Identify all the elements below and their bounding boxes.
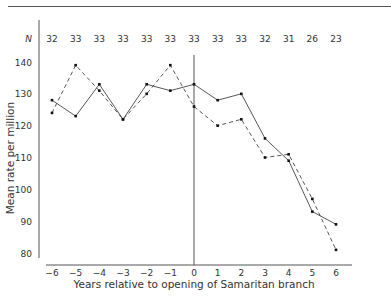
data-point-dashed [51,112,54,115]
x-tick-label: 1 [215,268,221,278]
data-point-dashed [264,156,267,159]
x-tick-label: −1 [164,268,177,278]
axes [39,20,352,265]
data-point-dashed [74,64,77,67]
data-point-dashed [287,153,290,156]
n-value: 33 [70,34,81,44]
data-point-solid [74,115,77,118]
data-point-dashed [335,249,338,252]
data-point-dashed [240,118,243,121]
y-tick-label: 80 [21,249,33,259]
n-row: N32333333333333333332312623 [25,34,341,44]
n-value: 33 [94,34,105,44]
data-point-dashed [169,64,172,67]
x-tick-label: −5 [69,268,82,278]
x-tick-label: −6 [45,268,59,278]
n-value: 23 [330,34,341,44]
n-value: 33 [165,34,176,44]
n-value: 33 [212,34,223,44]
data-point-solid [240,93,243,96]
data-point-solid [51,99,54,102]
data-point-solid [193,83,196,86]
y-tick-label: 90 [21,217,33,227]
y-tick-label: 140 [15,58,32,68]
y-tick-label: 120 [15,121,32,131]
y-tick-label: 130 [15,89,32,99]
line-chart: 8090100110120130140 −6−5−4−3−2−10123456 … [0,0,391,299]
n-label: N [25,34,32,44]
y-tick-labels: 8090100110120130140 [15,58,32,259]
n-value: 31 [283,34,294,44]
data-point-solid [169,89,172,92]
n-value: 33 [141,34,152,44]
data-point-dashed [145,93,148,96]
n-value: 33 [117,34,128,44]
y-axis-label: Mean rate per million [4,102,16,214]
data-point-dashed [311,198,314,201]
x-tick-label: −4 [93,268,107,278]
data-point-solid [264,137,267,140]
data-point-solid [216,99,219,102]
data-point-dashed [193,105,196,108]
x-tick-label: 4 [286,268,292,278]
data-point-solid [335,223,338,226]
x-tick-label: −2 [140,268,153,278]
data-point-solid [311,210,314,213]
data-point-dashed [122,118,125,121]
y-tick-label: 110 [15,153,32,163]
x-tick-label: −3 [116,268,129,278]
x-tick-label: 0 [191,268,197,278]
n-value: 32 [46,34,57,44]
x-tick-label: 5 [309,268,315,278]
y-tick-label: 100 [15,185,32,195]
data-point-solid [145,83,148,86]
data-point-solid [98,83,101,86]
x-axis-label: Years relative to opening of Samaritan b… [72,278,314,290]
n-value: 32 [259,34,270,44]
n-value: 26 [307,34,319,44]
x-tick-labels: −6−5−4−3−2−10123456 [45,268,339,278]
data-point-solid [287,159,290,162]
x-tick-label: 6 [333,268,339,278]
data-point-dashed [98,89,101,92]
n-value: 33 [188,34,199,44]
data-point-dashed [216,124,219,127]
n-value: 33 [236,34,247,44]
x-tick-label: 2 [238,268,244,278]
x-tick-label: 3 [262,268,268,278]
